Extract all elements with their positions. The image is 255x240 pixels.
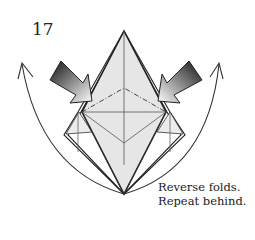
push-arrow-right bbox=[158, 61, 202, 103]
instruction-line-1: Reverse folds. bbox=[158, 180, 246, 194]
instructions: Reverse folds. Repeat behind. bbox=[158, 180, 246, 208]
push-arrow-left bbox=[50, 61, 92, 103]
instruction-line-2: Repeat behind. bbox=[158, 194, 246, 208]
central-diamond bbox=[82, 31, 166, 194]
